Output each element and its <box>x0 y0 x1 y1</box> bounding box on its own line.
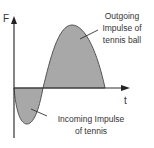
force-time-diagram: F t Outgoing Impulse of tennis ball Inco… <box>0 0 154 148</box>
x-axis-arrow-icon <box>121 85 130 91</box>
incoming-label-line-2: of tennis <box>75 126 107 136</box>
outgoing-label-line-1: Outgoing <box>105 11 140 21</box>
outgoing-label-line-2: Impulse of <box>102 23 142 33</box>
incoming-label-line-1: Incoming Impulse <box>58 114 125 124</box>
incoming-impulse-area <box>14 88 43 124</box>
outgoing-impulse-area <box>43 25 105 88</box>
y-axis-label: F <box>3 13 9 24</box>
y-axis-arrow-icon <box>11 16 17 24</box>
x-axis-label: t <box>124 95 127 106</box>
diagram-svg: F t Outgoing Impulse of tennis ball Inco… <box>0 0 154 148</box>
outgoing-label-line-3: tennis ball <box>103 35 141 45</box>
